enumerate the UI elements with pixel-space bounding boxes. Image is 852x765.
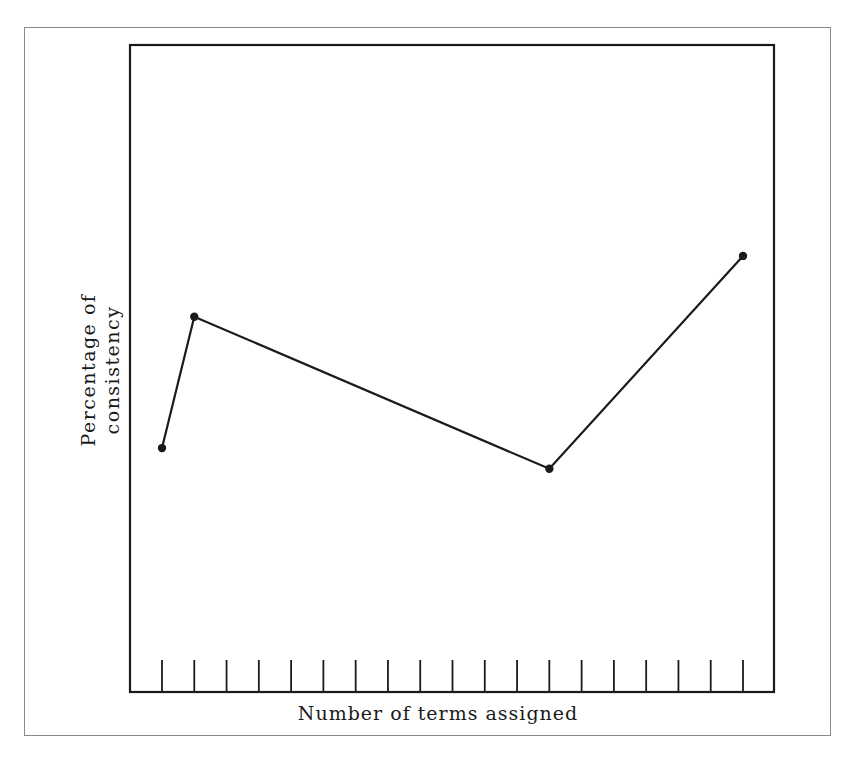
y-axis-label-line-2: consistency — [100, 294, 124, 447]
x-axis-ticks — [162, 660, 743, 692]
data-points — [158, 252, 747, 473]
plot-area-border — [130, 45, 774, 692]
y-axis-label-line-1: Percentage of — [76, 294, 100, 447]
data-point-marker — [739, 252, 747, 260]
line-chart — [0, 0, 852, 765]
x-axis-label: Number of terms assigned — [282, 702, 594, 724]
data-line — [162, 256, 743, 469]
y-axis-label: Percentage of consistency — [76, 294, 124, 447]
data-point-marker — [190, 313, 198, 321]
data-point-marker — [545, 465, 553, 473]
data-point-marker — [158, 444, 166, 452]
